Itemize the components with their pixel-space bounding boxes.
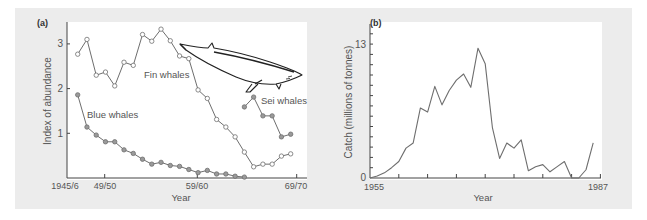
data-point xyxy=(140,32,144,36)
data-point xyxy=(94,73,98,77)
data-point xyxy=(76,52,80,56)
series-line-fin-whales xyxy=(78,29,291,167)
data-point xyxy=(159,27,163,31)
data-point xyxy=(279,135,283,139)
data-point xyxy=(251,95,255,99)
data-point xyxy=(150,162,154,166)
data-point xyxy=(187,56,191,60)
data-point xyxy=(261,114,265,118)
data-point xyxy=(76,93,80,97)
label-fin-whales: Fin whales xyxy=(144,69,190,80)
data-point xyxy=(233,135,237,139)
panel-b-ylabel: Catch (millions of tonnes) xyxy=(343,46,354,159)
panel-b-xtick-1987: 1987 xyxy=(588,182,608,192)
panel-a-xtick-0: 1945/6 xyxy=(51,181,79,191)
data-point xyxy=(168,163,172,167)
panel-a-ytick-2: 2 xyxy=(57,83,63,94)
panel-a-ytick-1: 1 xyxy=(57,128,63,139)
data-point xyxy=(150,39,154,43)
data-point xyxy=(224,172,228,176)
panel-b-xtick-1955: 1955 xyxy=(364,182,384,192)
data-point xyxy=(94,133,98,137)
data-point xyxy=(261,162,265,166)
data-point xyxy=(122,60,126,64)
label-sei-whales: Sei whales xyxy=(261,95,307,106)
panel-b-ytick-13: 13 xyxy=(355,39,367,50)
figure-svg: (a) Index of abundance Year 3 2 1 1945/6… xyxy=(0,0,647,220)
panel-a-xtick-3: 69/70 xyxy=(285,181,308,191)
data-point xyxy=(214,172,218,176)
panel-a-xlabel: Year xyxy=(171,192,190,203)
data-point xyxy=(205,96,209,100)
data-point xyxy=(177,54,181,58)
data-point xyxy=(85,37,89,41)
panel-a-ytick-3: 3 xyxy=(57,38,63,49)
data-point xyxy=(196,88,200,92)
data-point xyxy=(187,167,191,171)
data-point xyxy=(103,140,107,144)
data-point xyxy=(242,105,246,109)
whale-illustration-icon xyxy=(180,43,302,92)
panel-b-xlabel: Year xyxy=(473,192,492,203)
panel-a-tag: (a) xyxy=(37,18,48,28)
data-point xyxy=(196,170,200,174)
panel-b-tag: (b) xyxy=(370,18,382,28)
data-point xyxy=(270,162,274,166)
data-point xyxy=(205,168,209,172)
panel-a-xtick-2: 59/60 xyxy=(186,181,209,191)
data-point xyxy=(288,132,292,136)
data-point xyxy=(103,70,107,74)
data-point xyxy=(85,125,89,129)
data-point xyxy=(113,84,117,88)
data-point xyxy=(214,117,218,121)
data-point xyxy=(224,125,228,129)
data-point xyxy=(140,157,144,161)
data-point xyxy=(131,151,135,155)
data-point xyxy=(159,160,163,164)
chart-b xyxy=(370,24,601,178)
data-point xyxy=(168,39,172,43)
data-point xyxy=(113,140,117,144)
data-point xyxy=(251,165,255,169)
series-line-catch xyxy=(370,48,593,178)
panel-a-xtick-1: 49/50 xyxy=(94,181,117,191)
label-blue-whales: Blue whales xyxy=(87,109,138,120)
data-point xyxy=(122,148,126,152)
data-point xyxy=(233,174,237,178)
data-point xyxy=(279,154,283,158)
data-point xyxy=(242,150,246,154)
data-point xyxy=(270,114,274,118)
data-point xyxy=(242,175,246,179)
panel-a-ylabel: Index of abundance xyxy=(42,57,53,145)
data-point xyxy=(177,164,181,168)
data-point xyxy=(288,152,292,156)
data-point xyxy=(131,63,135,67)
